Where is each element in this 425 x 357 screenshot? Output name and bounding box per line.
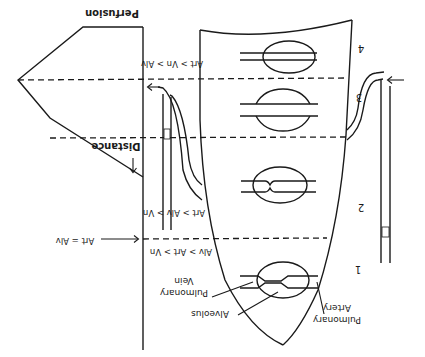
- alveolar-unit-zone-2: [241, 167, 316, 203]
- boundary-1-2: [143, 238, 327, 239]
- zone-3-relation: Art > Vn > Alv: [141, 59, 203, 69]
- vessel-wall-bottom: [241, 188, 316, 192]
- alveolus-shape: [253, 167, 307, 203]
- lung-top-edge: [200, 20, 352, 34]
- alveolus-shape: [263, 41, 315, 73]
- alveolar-unit-zone-3: [240, 89, 318, 131]
- pulmonary-artery-label-line1: Artery: [322, 303, 351, 313]
- artery-tube-inner: [347, 72, 384, 130]
- alveolus-leader: [238, 292, 278, 315]
- alveolar-unit-zone-1: [240, 262, 318, 298]
- artery-fluid-level: [382, 227, 389, 237]
- zone-number-3: 3: [356, 92, 362, 103]
- zone-1-relation: Alv > Art > Vn: [150, 247, 212, 257]
- perfusion-curve: [18, 27, 143, 177]
- pulmonary-artery-leader: [317, 282, 324, 314]
- pulmonary-artery-label-line2: Pulmonary: [312, 315, 361, 325]
- alveolus-lower-arc: [256, 116, 310, 131]
- boundary-3-4: [18, 78, 347, 80]
- vein-fluid-level: [164, 129, 170, 139]
- artery-tube-outer: [347, 79, 383, 140]
- zone-number-4: 4: [358, 43, 364, 54]
- boundary-annotation: Art = Alv: [56, 236, 94, 246]
- lung-left-edge: [200, 30, 283, 345]
- vessel-wall-top: [241, 181, 316, 185]
- arterial-tube: [347, 72, 404, 263]
- pulmonary-vein-label-line2: Pulmonary: [159, 288, 208, 298]
- alveolus-label: Alveolus: [191, 309, 229, 319]
- zone-number-2: 2: [358, 202, 364, 213]
- west-zones-diagram: Perfusion Distance: [0, 0, 425, 357]
- perfusion-plot: Perfusion Distance: [18, 8, 143, 350]
- perfusion-label: Perfusion: [85, 8, 139, 19]
- alveolus-upper-arc: [256, 89, 310, 104]
- lung-outline: [200, 20, 352, 345]
- distance-label: Distance: [91, 141, 140, 152]
- vein-tube-inner: [170, 95, 202, 185]
- zone-number-1: 1: [355, 264, 361, 275]
- pulmonary-vein-label-line1: Vein: [174, 276, 193, 286]
- alveolar-unit-zone-4: [240, 41, 317, 73]
- vein-tube-outer: [158, 87, 202, 200]
- vessel-wall-top: [240, 276, 318, 281]
- zone-2-relation: Art > Alv > Vn: [143, 208, 205, 218]
- boundary-2-3: [50, 137, 346, 138]
- structure-labels: Vein Pulmonary Alveolus Artery Pulmonary: [159, 276, 361, 325]
